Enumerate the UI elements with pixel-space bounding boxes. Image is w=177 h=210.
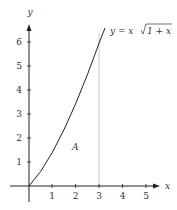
svg-text:2: 2	[73, 191, 79, 201]
svg-text:3: 3	[96, 191, 102, 201]
area-under-curve-chart: 1 2 3 4 5 1 2 3 4 5 6 y x A y = x 1 + x	[0, 0, 177, 210]
svg-text:6: 6	[16, 37, 22, 47]
curve	[29, 28, 105, 186]
region-label: A	[71, 142, 79, 152]
svg-text:y = x: y = x	[109, 26, 133, 36]
svg-text:1: 1	[16, 157, 22, 167]
x-tick-labels: 1 2 3 4 5	[49, 191, 149, 201]
svg-text:2: 2	[16, 133, 22, 143]
y-axis-label: y	[26, 7, 33, 17]
y-tick-labels: 1 2 3 4 5 6	[16, 37, 22, 167]
curve-equation: y = x 1 + x	[109, 24, 172, 36]
x-axis-arrow-icon	[153, 184, 160, 189]
svg-text:5: 5	[16, 61, 22, 71]
x-axis-label: x	[165, 181, 170, 191]
svg-text:4: 4	[16, 85, 22, 95]
y-axis-arrow-icon	[27, 24, 32, 31]
svg-text:1 + x: 1 + x	[147, 26, 171, 36]
svg-text:5: 5	[143, 191, 149, 201]
svg-text:1: 1	[49, 191, 55, 201]
svg-text:4: 4	[120, 191, 126, 201]
svg-text:3: 3	[16, 109, 22, 119]
